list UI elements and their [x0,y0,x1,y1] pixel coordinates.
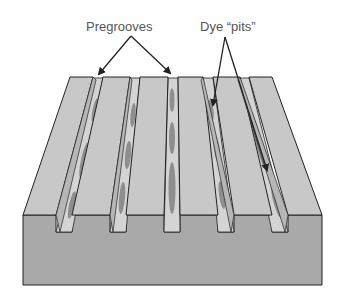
disc-surface-diagram [0,0,344,305]
pregroove-arrow-right [131,36,170,73]
pregroove-arrow-left [99,36,131,74]
